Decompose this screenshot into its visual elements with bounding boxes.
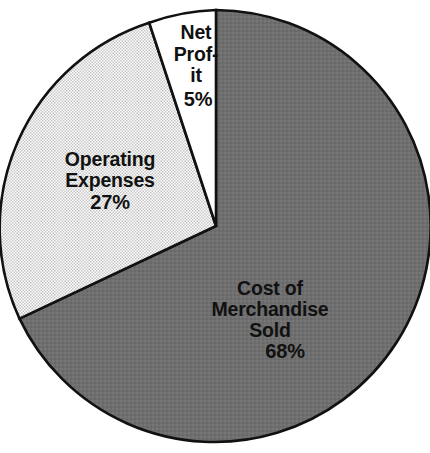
cost-of-merchandise-label-line1: Cost of: [237, 277, 303, 299]
net-profit-label-line3: it: [190, 64, 202, 86]
net-profit-percent: 5%: [184, 88, 213, 110]
operating-expenses-percent: 27%: [90, 191, 130, 213]
cost-of-merchandise-label-line2: Merchandise: [211, 298, 328, 320]
pie-chart: Net Prof- it 5% Operating Expenses 27% C…: [0, 0, 430, 453]
operating-expenses-label-line1: Operating: [65, 148, 155, 170]
cost-of-merchandise-label-line3: Sold: [249, 319, 290, 341]
cost-of-merchandise-percent: 68%: [265, 340, 305, 362]
operating-expenses-label-line2: Expenses: [65, 169, 155, 191]
pie-chart-svg: Net Prof- it 5% Operating Expenses 27% C…: [0, 0, 430, 453]
net-profit-label-line2: Prof-: [174, 43, 219, 65]
net-profit-label-line1: Net: [181, 21, 213, 43]
